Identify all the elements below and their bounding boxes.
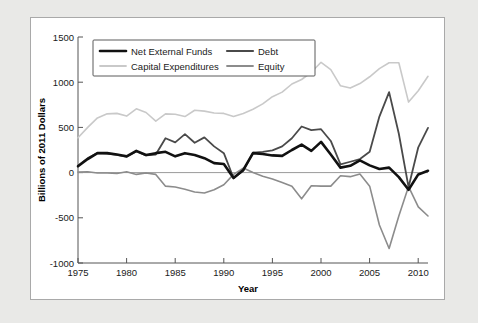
y-axis-title: Billions of 2011 Dollars: [36, 98, 47, 202]
y-tick-label: 1500: [53, 32, 74, 43]
y-tick-label: 500: [58, 122, 74, 133]
x-tick-marks: [78, 258, 418, 263]
x-tick-label: 1985: [165, 267, 186, 278]
y-tick-label: -500: [55, 212, 74, 223]
x-tick-label: 2005: [359, 267, 380, 278]
legend-label-net-external-funds: Net External Funds: [131, 46, 213, 57]
x-tick-label: 1975: [67, 267, 88, 278]
legend-label-equity: Equity: [258, 61, 285, 72]
legend-label-debt: Debt: [258, 46, 278, 57]
chart-legend: Net External Funds Debt Capital Expendit…: [93, 40, 315, 76]
series-group: [78, 62, 428, 248]
x-tick-label: 2010: [408, 267, 429, 278]
series-line-equity: [78, 168, 428, 248]
legend-label-capital-expenditures: Capital Expenditures: [131, 61, 219, 72]
x-tick-label: 1990: [213, 267, 234, 278]
y-tick-marks: [78, 37, 83, 263]
x-tick-label: 1980: [116, 267, 137, 278]
y-tick-label: 0: [69, 167, 74, 178]
series-line-net-external-funds: [78, 142, 428, 190]
x-tick-label: 1995: [262, 267, 283, 278]
x-tick-label: 2000: [310, 267, 331, 278]
x-axis-title: Year: [238, 283, 258, 294]
chart-figure-panel: 1500 1000 500 0 -500 -1000 1975 1980 198…: [30, 17, 445, 300]
line-chart: 1500 1000 500 0 -500 -1000 1975 1980 198…: [31, 18, 444, 299]
y-tick-label: 1000: [53, 77, 74, 88]
